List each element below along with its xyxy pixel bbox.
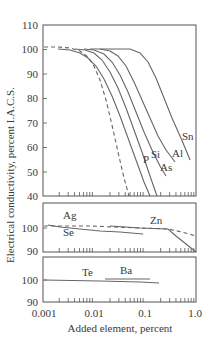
- ytick-60: 60: [27, 141, 39, 153]
- xtick-1.0: 1.0: [188, 307, 202, 319]
- curve-te: [44, 280, 159, 283]
- ytick-100: 100: [22, 43, 39, 55]
- x-ticks: 0.001 0.01 0.1 1.0: [32, 307, 203, 319]
- ytick-80: 80: [27, 92, 39, 104]
- middle-curve-labels: Ag Se Zn: [63, 209, 163, 238]
- xtick-0.001: 0.001: [32, 307, 57, 319]
- x-axis-title: Added element, percent: [68, 322, 173, 334]
- label-al: Al: [172, 147, 183, 159]
- label-si: Si: [151, 148, 160, 160]
- bot-ytick-100: 100: [22, 274, 39, 286]
- label-se: Se: [63, 226, 74, 238]
- label-p: P: [143, 153, 149, 165]
- ytick-70: 70: [27, 117, 39, 129]
- top-panel-frame: [43, 25, 196, 196]
- xtick-0.1: 0.1: [138, 307, 152, 319]
- top-y-tick-marks: [43, 50, 47, 173]
- mid-ytick-100: 100: [22, 222, 39, 234]
- mid-y-ticks: 100 90: [22, 222, 39, 257]
- mid-bot-y-tick-marks: [43, 228, 47, 280]
- curve-sn: [100, 49, 190, 160]
- ytick-90: 90: [27, 68, 39, 80]
- label-te: Te: [82, 266, 93, 278]
- ytick-110: 110: [22, 19, 39, 31]
- mid-ytick-90: 90: [27, 245, 39, 257]
- label-ba: Ba: [120, 264, 132, 276]
- curve-p: [58, 49, 150, 196]
- top-panel-curves: [44, 47, 190, 196]
- xtick-0.01: 0.01: [84, 307, 103, 319]
- x-log-ticks: [59, 192, 194, 302]
- label-zn: Zn: [150, 214, 163, 226]
- ytick-50: 50: [27, 166, 39, 178]
- y-axis-title: Electrical conductivity, percent I.A.C.S…: [4, 87, 16, 263]
- conductivity-chart: 110 100 90 80 70 60 50 40 100 90 100 90 …: [0, 0, 212, 349]
- label-ag: Ag: [63, 209, 77, 221]
- bottom-panel-curves: [44, 279, 159, 283]
- label-sn: Sn: [182, 130, 194, 142]
- bottom-curve-labels: Te Ba: [82, 264, 132, 278]
- label-as: As: [160, 161, 172, 173]
- bot-y-ticks: 100 90: [22, 274, 39, 308]
- curve-al: [90, 49, 175, 162]
- ytick-40: 40: [27, 190, 39, 202]
- top-y-ticks: 110 100 90 80 70 60 50 40: [22, 19, 39, 202]
- curve-si: [75, 49, 157, 196]
- curve-zn: [110, 226, 196, 252]
